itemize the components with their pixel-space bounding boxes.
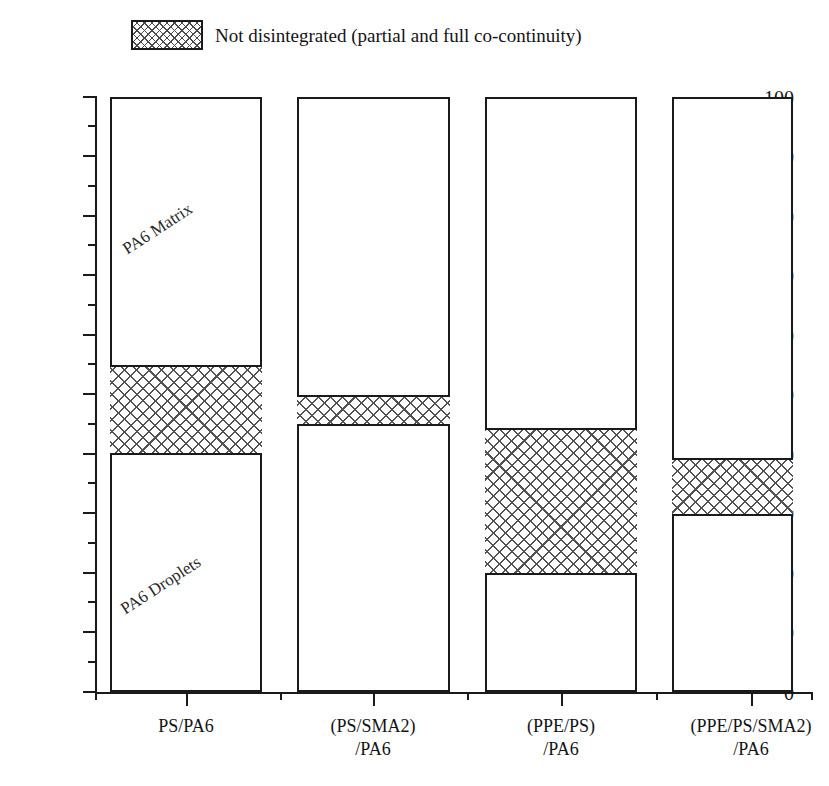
x-tick-label-line: /PA6: [690, 738, 811, 761]
y-minor-tick-25: [88, 542, 96, 544]
x-minor-tick-3: [656, 692, 658, 700]
bar-segment-not-disintegrated[interactable]: [485, 428, 637, 575]
y-tick-10: [83, 631, 96, 633]
y-minor-tick-75: [88, 244, 96, 246]
x-tick-label-line: /PA6: [330, 738, 415, 761]
x-tick-category-4: [751, 692, 753, 706]
y-minor-tick-45: [88, 423, 96, 425]
x-minor-tick-1: [280, 692, 282, 700]
x-minor-tick-2: [467, 692, 469, 700]
x-axis-line: [95, 692, 813, 694]
y-tick-100: [83, 96, 96, 98]
x-tick-label-line: (PS/SMA2): [330, 715, 415, 738]
chart-legend: Not disintegrated (partial and full co-c…: [131, 20, 582, 50]
plot-area: Weight Percent (wt %) PA6 100 90 80 70 6…: [96, 97, 812, 692]
y-minor-tick-65: [88, 304, 96, 306]
y-minor-tick-35: [88, 482, 96, 484]
bar-segment-not-disintegrated[interactable]: [672, 458, 793, 516]
y-minor-tick-85: [88, 185, 96, 187]
y-tick-60: [83, 334, 96, 336]
bar-ppe-ps-sma2-pa6[interactable]: [672, 97, 793, 692]
x-tick-label-category-4: (PPE/PS/SMA2) /PA6: [690, 715, 811, 762]
bar-segment-not-disintegrated[interactable]: [110, 365, 262, 455]
x-tick-label-category-3: (PPE/PS) /PA6: [527, 715, 595, 762]
y-tick-50: [83, 393, 96, 395]
y-minor-tick-5: [88, 661, 96, 663]
x-tick-label-category-2: (PS/SMA2) /PA6: [330, 715, 415, 762]
bar-label-pa6-droplets: PA6 Droplets: [117, 552, 205, 619]
y-minor-tick-15: [88, 601, 96, 603]
x-tick-category-1: [186, 692, 188, 706]
x-tick-category-3: [561, 692, 563, 706]
x-tick-label-category-1: PS/PA6: [158, 715, 213, 738]
x-tick-label-line: PS/PA6: [158, 715, 213, 738]
y-tick-20: [83, 572, 96, 574]
bar-ps-sma2-pa6[interactable]: [297, 97, 450, 692]
bar-chart-figure: Not disintegrated (partial and full co-c…: [0, 0, 829, 786]
y-tick-30: [83, 512, 96, 514]
bar-ps-pa6[interactable]: PA6 Matrix PA6 Droplets: [110, 97, 262, 692]
y-tick-40: [83, 453, 96, 455]
x-tick-category-2: [373, 692, 375, 706]
x-minor-tick-0: [95, 692, 97, 700]
x-minor-tick-4: [811, 692, 813, 700]
bar-segment-not-disintegrated[interactable]: [297, 395, 450, 426]
y-minor-tick-55: [88, 363, 96, 365]
legend-label: Not disintegrated (partial and full co-c…: [215, 26, 582, 45]
y-tick-90: [83, 155, 96, 157]
x-tick-label-line: (PPE/PS): [527, 715, 595, 738]
y-tick-80: [83, 215, 96, 217]
x-tick-label-line: /PA6: [527, 738, 595, 761]
bar-ppe-ps-pa6[interactable]: [485, 97, 637, 692]
cross-hatch-pattern-icon: [131, 20, 203, 50]
y-tick-70: [83, 274, 96, 276]
y-minor-tick-95: [88, 125, 96, 127]
x-tick-label-line: (PPE/PS/SMA2): [690, 715, 811, 738]
bar-label-pa6-matrix: PA6 Matrix: [119, 199, 196, 259]
